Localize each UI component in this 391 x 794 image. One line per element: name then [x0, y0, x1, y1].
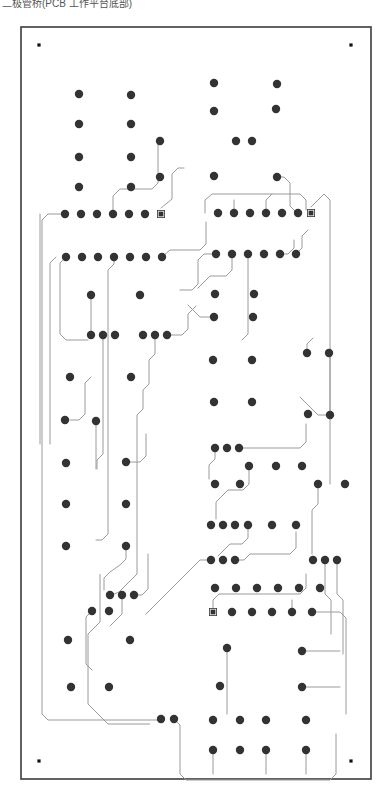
pad [262, 746, 270, 754]
pad [210, 398, 218, 406]
pad [228, 608, 236, 616]
pad [75, 90, 83, 98]
pad [67, 683, 75, 691]
pad [130, 591, 138, 599]
pad [62, 253, 70, 261]
pad [210, 107, 218, 115]
pad [236, 480, 244, 488]
pad [88, 607, 96, 615]
pad [232, 584, 240, 592]
pad [244, 521, 252, 529]
pad [156, 173, 164, 181]
pad [295, 584, 303, 592]
pad [260, 250, 268, 258]
pad [163, 331, 171, 339]
pad [325, 349, 333, 357]
pad [236, 716, 244, 724]
pad [211, 444, 219, 452]
pad [61, 210, 69, 218]
pad [246, 209, 254, 217]
pad [111, 331, 119, 339]
pad [209, 356, 217, 364]
pad [126, 253, 134, 261]
pad [127, 120, 135, 128]
pad [248, 356, 256, 364]
pad [326, 411, 334, 419]
pad [122, 500, 130, 508]
pad [316, 584, 324, 592]
pad [157, 715, 165, 723]
pad [216, 682, 224, 690]
pad [64, 636, 72, 644]
pad [262, 716, 270, 724]
fiducial-bottom-left [37, 759, 40, 762]
pad [211, 290, 219, 298]
pad [62, 542, 70, 550]
pad [207, 556, 215, 564]
pad [141, 210, 149, 218]
pad [248, 137, 256, 145]
pad [170, 715, 178, 723]
pad [214, 209, 222, 217]
pad [228, 250, 236, 258]
pad [75, 120, 83, 128]
pad [127, 153, 135, 161]
pad [250, 290, 258, 298]
pad [262, 209, 270, 217]
pad [210, 79, 218, 87]
pad [272, 462, 280, 470]
pad [231, 521, 239, 529]
pad [308, 608, 316, 616]
pad [292, 521, 300, 529]
pad [139, 331, 147, 339]
pad [278, 209, 286, 217]
pad [341, 480, 349, 488]
pad [298, 683, 306, 691]
pad [127, 183, 135, 191]
pad [87, 291, 95, 299]
pad [232, 137, 240, 145]
fiducial-top-right [349, 43, 352, 46]
pad [75, 183, 83, 191]
pad [106, 591, 114, 599]
pad [125, 210, 133, 218]
pad [118, 591, 126, 599]
pad [122, 542, 130, 550]
fiducial-top-left [37, 43, 40, 46]
pad [210, 313, 218, 321]
pad [94, 253, 102, 261]
pad [122, 458, 130, 466]
pad [99, 331, 107, 339]
pad [62, 459, 70, 467]
pad [248, 608, 256, 616]
pad [302, 716, 310, 724]
pcb-layout-page: 二极管桥(PCB 工作平台底部) [0, 0, 391, 794]
pad [294, 209, 302, 217]
pad [66, 373, 74, 381]
pad [303, 349, 311, 357]
pad [127, 373, 135, 381]
pad [235, 444, 243, 452]
pad [268, 608, 276, 616]
pad [298, 462, 306, 470]
figure-background [0, 14, 391, 794]
pad [75, 153, 83, 161]
pad [212, 250, 220, 258]
pad [158, 253, 166, 261]
pad [207, 521, 215, 529]
pad [273, 80, 281, 88]
pad [136, 291, 144, 299]
pad [210, 172, 218, 180]
pad [249, 313, 257, 321]
pad [273, 173, 281, 181]
pad [105, 607, 113, 615]
pad [93, 210, 101, 218]
pad [268, 521, 276, 529]
pad [223, 444, 231, 452]
pad [219, 521, 227, 529]
pad [292, 250, 300, 258]
pad [151, 331, 159, 339]
pad [142, 253, 150, 261]
pad [321, 556, 329, 564]
pad [276, 250, 284, 258]
